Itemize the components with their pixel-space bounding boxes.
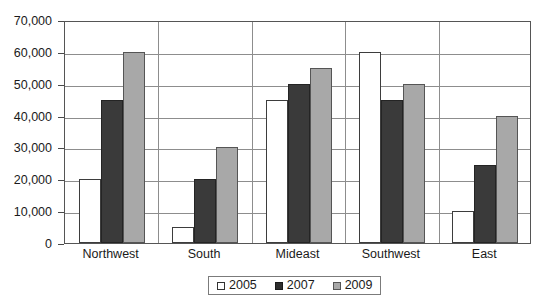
y-axis-tick-label: 10,000	[14, 206, 52, 219]
x-axis-tick-label: East	[472, 248, 497, 261]
y-axis-tick-label: 70,000	[14, 15, 52, 28]
legend-item-2007[interactable]: 2007	[275, 279, 315, 292]
y-axis-tick-label: 60,000	[14, 47, 52, 60]
y-axis-tick-label: 20,000	[14, 174, 52, 187]
bar-mideast-2009	[310, 68, 332, 243]
x-axis-tick-label: Mideast	[276, 248, 320, 261]
bar-east-2005	[452, 211, 474, 243]
bar-southwest-2007	[381, 100, 403, 243]
legend-swatch-icon	[217, 282, 225, 290]
chart-legend: 200520072009	[208, 276, 381, 295]
bar-south-2009	[216, 147, 238, 243]
x-axis-tick-label: Southwest	[362, 248, 420, 261]
bars-layer	[65, 22, 530, 243]
chart-title	[0, 0, 548, 3]
legend-item-2009[interactable]: 2009	[333, 279, 373, 292]
y-axis-tick-mark	[58, 244, 64, 245]
bar-northwest-2009	[123, 52, 145, 243]
plot-area	[64, 21, 531, 244]
bar-east-2007	[474, 165, 496, 243]
legend-label: 2005	[229, 279, 257, 292]
bar-east-2009	[496, 116, 518, 243]
bar-south-2007	[194, 179, 216, 243]
legend-swatch-icon	[333, 282, 341, 290]
y-axis: 010,00020,00030,00040,00050,00060,00070,…	[0, 0, 58, 306]
legend-item-2005[interactable]: 2005	[217, 279, 257, 292]
bar-chart-figure: 010,00020,00030,00040,00050,00060,00070,…	[0, 0, 548, 306]
bar-southwest-2005	[359, 52, 381, 243]
bar-mideast-2007	[288, 84, 310, 243]
bar-northwest-2007	[101, 100, 123, 243]
y-axis-tick-label: 0	[45, 238, 52, 251]
bar-south-2005	[172, 227, 194, 243]
x-axis-tick-label: Northwest	[83, 248, 139, 261]
x-axis: NorthwestSouthMideastSouthwestEast	[64, 248, 531, 268]
bar-mideast-2005	[266, 100, 288, 243]
legend-label: 2009	[345, 279, 373, 292]
legend-swatch-icon	[275, 282, 283, 290]
x-axis-tick-label: South	[188, 248, 221, 261]
bar-southwest-2009	[403, 84, 425, 243]
bar-northwest-2005	[79, 179, 101, 243]
y-axis-tick-label: 50,000	[14, 78, 52, 91]
legend-label: 2007	[287, 279, 315, 292]
y-axis-tick-label: 30,000	[14, 142, 52, 155]
y-axis-tick-label: 40,000	[14, 110, 52, 123]
